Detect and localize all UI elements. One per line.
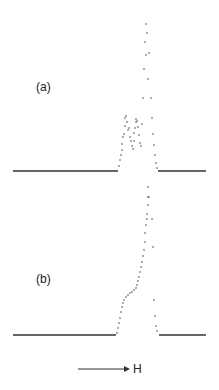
data-point	[147, 204, 149, 206]
figure	[0, 0, 219, 390]
data-point	[140, 266, 142, 268]
data-point	[141, 261, 143, 263]
panel-b-data-points	[116, 196, 158, 334]
data-point	[142, 255, 144, 257]
data-point	[133, 140, 135, 142]
data-point	[138, 276, 140, 278]
data-point	[136, 120, 138, 122]
data-point	[155, 325, 157, 327]
data-point	[122, 302, 124, 304]
data-point	[131, 145, 133, 147]
data-point	[123, 299, 125, 301]
data-point	[125, 296, 127, 298]
data-point	[153, 299, 155, 301]
panel-a-plot	[13, 23, 206, 198]
data-point	[122, 136, 124, 138]
data-point	[148, 52, 150, 54]
data-point	[124, 125, 126, 127]
panel-b-plot	[13, 196, 206, 335]
data-point	[129, 292, 131, 294]
data-point	[144, 232, 146, 234]
data-point	[143, 249, 145, 251]
data-point	[147, 186, 149, 188]
data-point	[133, 289, 135, 291]
data-point	[121, 149, 123, 151]
data-point	[135, 287, 137, 289]
data-point	[129, 136, 131, 138]
data-point	[135, 118, 137, 120]
data-point	[152, 246, 154, 248]
data-point	[146, 213, 148, 215]
data-point	[156, 167, 158, 169]
data-point	[126, 121, 128, 123]
data-point	[147, 78, 149, 80]
data-point	[139, 142, 141, 144]
data-point	[123, 133, 125, 135]
data-point	[121, 306, 123, 308]
data-point	[144, 241, 146, 243]
data-point	[145, 54, 147, 56]
data-point	[153, 144, 155, 146]
data-point	[151, 218, 153, 220]
data-point	[127, 129, 129, 131]
data-point	[146, 218, 148, 220]
data-point	[145, 23, 147, 25]
data-point	[136, 284, 138, 286]
panel-a-label: (a)	[36, 80, 51, 94]
data-point	[137, 280, 139, 282]
data-point	[152, 133, 154, 135]
data-point	[137, 126, 139, 128]
data-point	[119, 159, 121, 161]
data-point	[150, 97, 152, 99]
data-point	[133, 132, 135, 134]
data-point	[141, 123, 143, 125]
data-point	[147, 196, 149, 198]
data-point	[132, 148, 134, 150]
data-point	[120, 154, 122, 156]
data-point	[138, 134, 140, 136]
data-point	[120, 311, 122, 313]
data-point	[125, 115, 127, 117]
data-point	[118, 165, 120, 167]
data-point	[140, 145, 142, 147]
data-point	[155, 162, 157, 164]
data-point	[118, 322, 120, 324]
data-point	[142, 97, 144, 99]
data-point	[116, 332, 118, 334]
data-point	[145, 224, 147, 226]
data-point	[128, 127, 130, 129]
data-point	[117, 327, 119, 329]
data-point	[151, 117, 153, 119]
data-point	[139, 271, 141, 273]
data-point	[154, 154, 156, 156]
data-point	[146, 32, 148, 34]
data-point	[134, 127, 136, 129]
panel-a-data-points	[118, 23, 158, 198]
data-point	[143, 68, 145, 70]
data-point	[156, 330, 158, 332]
data-point	[124, 117, 126, 119]
data-point	[121, 143, 123, 145]
data-point	[131, 291, 133, 293]
data-point	[119, 317, 121, 319]
field-arrow-icon	[78, 366, 130, 372]
data-point	[130, 140, 132, 142]
data-point	[154, 315, 156, 317]
field-direction-label: H	[133, 362, 142, 376]
data-point	[127, 294, 129, 296]
panel-b-label: (b)	[36, 272, 51, 286]
data-point	[144, 41, 146, 43]
